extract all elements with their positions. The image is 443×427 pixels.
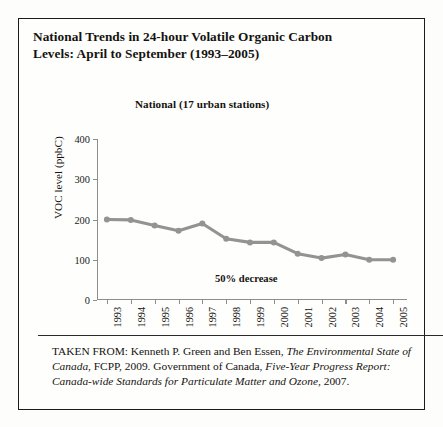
- x-tick-label-2002: 2002: [327, 307, 338, 327]
- data-point-2000: [271, 239, 277, 245]
- x-tick-1996: [179, 300, 180, 304]
- x-tick-label-2000: 2000: [279, 307, 290, 327]
- y-tick-0: [93, 300, 97, 301]
- y-tick-label-400: 400: [74, 134, 90, 145]
- data-point-2003: [342, 252, 348, 258]
- decrease-annotation: 50% decrease: [215, 273, 277, 284]
- data-point-1995: [152, 223, 158, 229]
- source-prefix: TAKEN FROM: Kenneth P. Green and Ben Ess…: [52, 345, 286, 357]
- x-tick-2001: [298, 300, 299, 304]
- source-citation: TAKEN FROM: Kenneth P. Green and Ben Ess…: [52, 344, 429, 389]
- data-point-1999: [247, 239, 253, 245]
- figure-title-line-2: Levels: April to September (1993–2005): [33, 46, 408, 63]
- x-tick-2002: [322, 300, 323, 304]
- data-point-2001: [295, 251, 301, 257]
- x-tick-label-2004: 2004: [374, 307, 385, 327]
- x-tick-1993: [107, 300, 108, 304]
- figure-title-line-1: National Trends in 24-hour Volatile Orga…: [33, 29, 408, 46]
- y-tick-label-300: 300: [74, 174, 90, 185]
- data-point-1996: [176, 228, 182, 234]
- data-point-1993: [104, 217, 110, 223]
- x-tick-label-1999: 1999: [255, 307, 266, 327]
- x-tick-label-1994: 1994: [136, 307, 147, 327]
- x-tick-label-2005: 2005: [398, 307, 409, 327]
- x-tick-2004: [369, 300, 370, 304]
- x-tick-1998: [226, 300, 227, 304]
- data-point-1997: [199, 221, 205, 227]
- x-tick-label-1998: 1998: [231, 307, 242, 327]
- source-divider: [38, 335, 443, 336]
- chart-subtitle: National (17 urban stations): [135, 98, 269, 110]
- figure-title: National Trends in 24-hour Volatile Orga…: [33, 29, 408, 62]
- data-point-1994: [128, 217, 134, 223]
- data-point-2002: [319, 255, 325, 261]
- x-tick-label-2001: 2001: [303, 307, 314, 327]
- figure-box: National Trends in 24-hour Volatile Orga…: [18, 18, 425, 410]
- source-suffix: , 2007.: [318, 375, 349, 387]
- x-tick-label-2003: 2003: [350, 307, 361, 327]
- x-tick-1999: [250, 300, 251, 304]
- x-tick-1995: [155, 300, 156, 304]
- x-tick-label-1993: 1993: [112, 307, 123, 327]
- data-point-2004: [366, 257, 372, 263]
- x-tick-1994: [131, 300, 132, 304]
- x-tick-1997: [202, 300, 203, 304]
- x-tick-2003: [345, 300, 346, 304]
- data-point-2005: [390, 257, 396, 263]
- y-tick-label-200: 200: [74, 214, 90, 225]
- x-tick-2000: [274, 300, 275, 304]
- source-middle: , FCPP, 2009. Government of Canada,: [88, 360, 265, 372]
- x-tick-label-1995: 1995: [160, 307, 171, 327]
- x-tick-label-1997: 1997: [207, 307, 218, 327]
- y-tick-label-0: 0: [85, 295, 90, 306]
- data-point-1998: [223, 236, 229, 242]
- x-tick-label-1996: 1996: [184, 307, 195, 327]
- x-tick-2005: [393, 300, 394, 304]
- y-tick-label-100: 100: [74, 254, 90, 265]
- y-axis-title: VOC level (ppbC): [52, 136, 64, 219]
